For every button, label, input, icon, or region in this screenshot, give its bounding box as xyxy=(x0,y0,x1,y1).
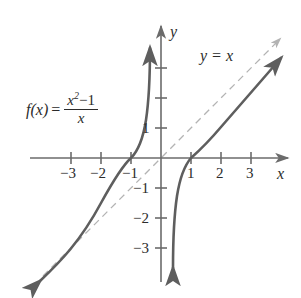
x-tick-label--1: −1 xyxy=(122,166,138,181)
y-tick-label-1: 1 xyxy=(142,121,150,136)
fraction-numerator: x2−1 xyxy=(64,91,98,109)
y-axis-name: y xyxy=(170,24,177,40)
numerator-constant: 1 xyxy=(87,92,95,108)
plot-canvas xyxy=(0,0,301,298)
fraction-denominator: x xyxy=(75,110,88,126)
y-tick-label--3: −3 xyxy=(133,241,149,256)
numerator-base: x xyxy=(67,92,74,108)
function-label-fraction: x2−1 x xyxy=(64,91,98,126)
x-axis xyxy=(30,152,288,164)
x-axis-name: x xyxy=(277,166,284,182)
y-tick-label--1: −1 xyxy=(133,181,149,196)
x-tick-label--3: −3 xyxy=(60,166,76,181)
x-tick-label--2: −2 xyxy=(90,166,106,181)
x-tick-label-1: 1 xyxy=(187,166,195,181)
function-label-lhs: f(x) xyxy=(26,102,48,118)
function-label: f(x) = x2−1 x xyxy=(26,92,98,127)
x-tick-label-3: 3 xyxy=(246,166,254,181)
x-tick-label-2: 2 xyxy=(216,166,224,181)
function-label-equals: = xyxy=(51,102,60,118)
function-curve-right-branch xyxy=(173,58,281,268)
asymptote-label: y = x xyxy=(200,48,233,64)
y-tick-label--2: −2 xyxy=(133,211,149,226)
function-graph-figure: −3 −2 −1 1 2 3 1 −1 −2 −3 y x y = x f(x)… xyxy=(0,0,301,298)
